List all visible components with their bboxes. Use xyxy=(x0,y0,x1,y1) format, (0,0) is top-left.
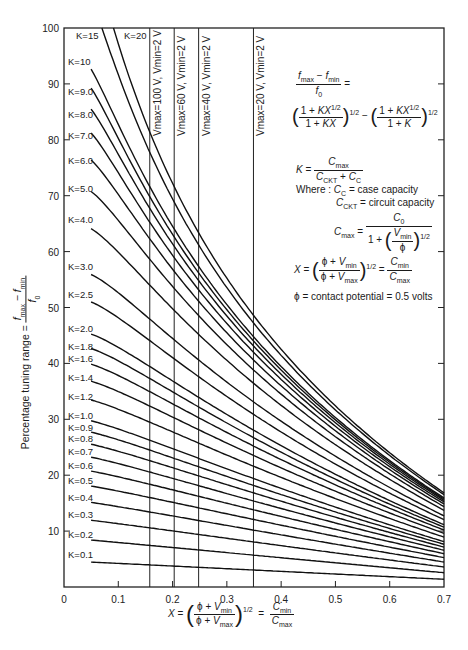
k-curve xyxy=(91,109,444,500)
k-curve-label: K=1.8 xyxy=(68,341,93,352)
y-tick-label: 100 xyxy=(42,23,59,34)
k-curve-label: K=1.4 xyxy=(68,372,93,383)
k-curve-label: K=0.9 xyxy=(68,422,93,433)
tuning-range-chart: Vmax=100 V, Vmin=2 VVmax=60 V, Vmin=2 VV… xyxy=(0,0,468,650)
k-curve-label: K=0.3 xyxy=(68,509,93,520)
formula-where-cckt: CCKT = circuit capacity xyxy=(336,197,434,211)
k-curve-label: K=15 xyxy=(76,30,98,41)
k-curve-label: K=0.1 xyxy=(68,549,93,560)
k-curve-label: K=1.2 xyxy=(68,391,93,402)
k-curve-label: K=10 xyxy=(68,56,90,67)
k-curve-label: K=0.4 xyxy=(68,492,93,503)
y-axis-label: Percentage tuning range = fmax − fmin f0 xyxy=(4,220,34,500)
formula-tuning-range: fmax − fminf0 = xyxy=(296,70,350,99)
x-tick-label: 0.5 xyxy=(328,594,342,605)
formula-where-cc: Where : CC = case capacity xyxy=(296,184,418,198)
y-tick-label: 60 xyxy=(48,247,60,258)
voltage-line-label: Vmax=40 V, Vmin=2 V xyxy=(201,35,212,136)
y-tick-label: 70 xyxy=(48,191,60,202)
voltage-line-label: Vmax=60 V, Vmin=2 V xyxy=(176,35,187,136)
k-curve xyxy=(91,302,444,520)
k-curve xyxy=(91,520,444,567)
y-tick-label: 50 xyxy=(48,303,60,314)
k-curve-label: K=0.2 xyxy=(68,529,93,540)
k-curve xyxy=(91,562,444,579)
y-tick-label: 90 xyxy=(48,79,60,90)
x-tick-label: 0 xyxy=(61,594,67,605)
k-curve-label: K=3.0 xyxy=(68,261,93,272)
x-tick-label: 0.1 xyxy=(111,594,125,605)
k-curve-label: K=2.5 xyxy=(68,289,93,300)
k-curve-label: K=1.6 xyxy=(68,353,93,364)
k-curve xyxy=(91,421,444,542)
k-curve-label: K=6.0 xyxy=(68,155,93,166)
y-tick-label: 10 xyxy=(48,526,60,537)
y-tick-label: 20 xyxy=(48,470,60,481)
k-curve-label: K=1.0 xyxy=(68,410,93,421)
formula-x-definition: X = (ϕ + Vminϕ + Vmax)1/2 = CminCmax xyxy=(294,256,412,285)
k-curve xyxy=(91,540,444,573)
formula-k-definition: K = CmaxCCKT + CC xyxy=(296,156,363,185)
k-curve-label: K=0.8 xyxy=(68,433,93,444)
y-tick-label: 40 xyxy=(48,358,60,369)
formula-cmax: Cmax = C01 + (Vminϕ)1/2 xyxy=(334,212,432,254)
k-curve-label: K=0.5 xyxy=(68,475,93,486)
x-axis-label: X = (ϕ + Vminϕ + Vmax)1/2 = CminCmax xyxy=(168,600,294,628)
x-tick-label: 0.6 xyxy=(383,594,397,605)
k-curve-label: K=8.0 xyxy=(68,109,93,120)
y-axis-label-fraction: fmax − fmin f0 xyxy=(11,276,40,322)
k-curve-label: K=2.0 xyxy=(68,323,93,334)
y-tick-label: 80 xyxy=(48,135,60,146)
x-tick-label: 0.7 xyxy=(437,594,451,605)
k-curve-label: K=20 xyxy=(124,30,146,41)
voltage-line-label: Vmax=100 V, Vmin=2 V xyxy=(152,30,163,136)
k-curve-label: K=9.0 xyxy=(68,86,93,97)
k-curve-label: K=0.7 xyxy=(68,446,93,457)
k-curve-label: K=0.6 xyxy=(68,460,93,471)
k-curve-label: K=4.0 xyxy=(68,214,93,225)
formula-contact-potential: ϕ = contact potential = 0.5 volts xyxy=(294,291,432,303)
y-axis-label-text: Percentage tuning range = xyxy=(19,325,31,449)
k-curve xyxy=(91,400,444,537)
y-tick-label: 30 xyxy=(48,414,60,425)
voltage-vertical-lines: Vmax=100 V, Vmin=2 VVmax=60 V, Vmin=2 VV… xyxy=(150,28,267,587)
k-curve-label: K=5.0 xyxy=(68,183,93,194)
k-curve-label: K=7.0 xyxy=(68,130,93,141)
voltage-line-label: Vmax=20 V, Vmin=2 V xyxy=(255,35,266,136)
formula-tuning-expression: (1 + KX1/21 + KX)1/2 − (1 + KX1/21 + K)1… xyxy=(292,104,438,129)
